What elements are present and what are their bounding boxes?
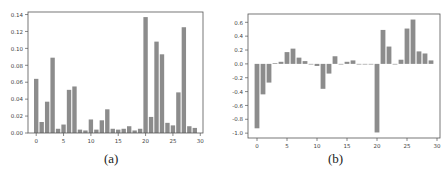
y-tick-label: 0.02 (11, 113, 23, 119)
y-tick-label: 0.08 (11, 63, 24, 69)
y-tick-label: 0.10 (11, 46, 24, 52)
bar (149, 117, 153, 133)
bar (111, 129, 115, 133)
bar (423, 53, 428, 63)
x-tick-label: 10 (314, 143, 321, 149)
caption-a: (a) (104, 151, 118, 167)
x-tick-label: 5 (285, 143, 289, 149)
y-tick-label: 0.4 (234, 33, 243, 39)
bar (78, 130, 82, 133)
bar (94, 130, 98, 133)
x-tick-label: 20 (374, 143, 381, 149)
bar (363, 64, 368, 65)
bar (315, 64, 320, 66)
bar (405, 29, 410, 64)
y-tick-label: 0.06 (11, 79, 24, 85)
bar (187, 126, 191, 133)
bar (339, 64, 344, 65)
bar (309, 64, 314, 65)
bar (56, 129, 60, 133)
bar (160, 54, 164, 133)
bar (297, 58, 302, 64)
bar (154, 42, 158, 133)
y-tick-label: 0.14 (11, 12, 24, 18)
bar (61, 125, 65, 133)
bar (267, 64, 272, 83)
chart-panel-b: -1.0-0.8-0.6-0.4-0.20.00.20.40.605101520… (223, 0, 446, 173)
bar (72, 86, 76, 133)
bar (116, 130, 120, 133)
bar (255, 64, 260, 128)
bar (138, 129, 142, 133)
bar (387, 47, 392, 64)
bar (89, 119, 93, 133)
bar (50, 58, 54, 133)
bar (261, 64, 266, 94)
y-tick-label: -1.0 (232, 130, 243, 136)
x-tick-label: 30 (197, 138, 204, 144)
bar (303, 61, 308, 64)
bar (143, 17, 147, 133)
chart-panel-a: 0.000.020.040.060.080.100.120.1405101520… (0, 0, 223, 173)
y-tick-label: 0.04 (11, 96, 24, 102)
y-tick-label: -0.2 (232, 75, 243, 81)
bar (345, 62, 350, 64)
x-tick-label: 15 (344, 143, 351, 149)
bar (39, 122, 43, 133)
bar (279, 62, 284, 64)
bar-chart-a: 0.000.020.040.060.080.100.120.1405101520… (0, 0, 223, 150)
bar (45, 102, 49, 133)
x-tick-label: 0 (34, 138, 38, 144)
bar (122, 129, 126, 133)
bar (369, 64, 374, 65)
x-tick-label: 15 (115, 138, 122, 144)
bar (399, 60, 404, 64)
bar (393, 64, 398, 65)
y-tick-label: -0.4 (232, 89, 243, 95)
bar (417, 51, 422, 63)
bar (351, 60, 356, 63)
y-tick-label: 0.00 (11, 130, 24, 136)
bar (357, 64, 362, 65)
bar (321, 64, 326, 89)
bar (165, 123, 169, 133)
bar (375, 64, 380, 133)
bar (34, 79, 38, 133)
bar (333, 56, 338, 64)
bar (411, 20, 416, 64)
caption-b: (b) (328, 151, 343, 167)
y-tick-label: -0.8 (232, 116, 243, 122)
y-tick-label: 0.12 (11, 29, 23, 35)
x-tick-label: 10 (87, 138, 94, 144)
bar (291, 49, 296, 64)
bar (285, 52, 290, 64)
x-tick-label: 25 (404, 143, 411, 149)
bar (105, 109, 109, 133)
y-tick-label: 0.2 (234, 47, 243, 53)
x-tick-label: 25 (169, 138, 176, 144)
bar (273, 63, 278, 64)
y-tick-label: 0.6 (234, 20, 243, 26)
y-tick-label: 0.0 (234, 61, 243, 67)
y-tick-label: -0.6 (232, 103, 243, 109)
bar (182, 27, 186, 133)
bar (381, 30, 386, 64)
bar (171, 125, 175, 133)
bar-chart-b: -1.0-0.8-0.6-0.4-0.20.00.20.40.605101520… (223, 0, 446, 150)
bar (67, 90, 71, 133)
bar (193, 128, 197, 133)
bar (127, 126, 131, 133)
x-tick-label: 20 (142, 138, 149, 144)
x-tick-label: 30 (434, 143, 441, 149)
x-tick-label: 5 (62, 138, 66, 144)
bar (100, 120, 104, 133)
bar (429, 60, 434, 63)
bar (327, 64, 332, 74)
x-tick-label: 0 (255, 143, 259, 149)
bar (176, 92, 180, 133)
